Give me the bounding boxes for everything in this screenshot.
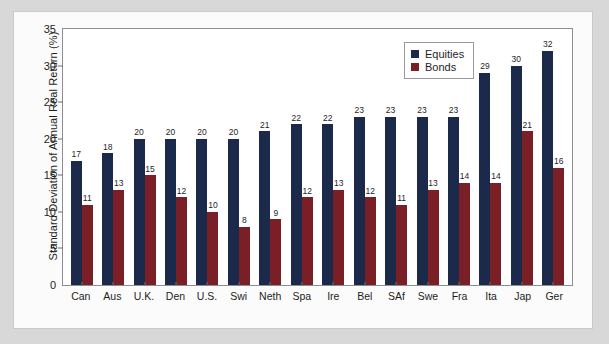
bar-value-label: 20 (197, 128, 206, 137)
bar-bonds[interactable]: 11 (396, 205, 407, 285)
x-axis-tick-label: Jap (507, 290, 539, 302)
bar-bonds[interactable]: 14 (459, 183, 470, 285)
x-axis-tick-mark (490, 282, 491, 286)
bar-value-label: 11 (83, 194, 92, 203)
bar-equities[interactable]: 23 (417, 117, 428, 285)
bar-bonds[interactable]: 12 (176, 197, 187, 285)
bar-equities[interactable]: 20 (196, 139, 207, 285)
bar-value-label: 23 (386, 106, 395, 115)
bar-equities[interactable]: 18 (102, 153, 113, 285)
x-axis-tick-mark (176, 282, 177, 286)
y-axis-title: Standard Deviation of Annual Real Return… (47, 21, 59, 271)
bar-bonds[interactable]: 13 (333, 190, 344, 285)
bar-bonds[interactable]: 10 (207, 212, 218, 285)
bar-bonds[interactable]: 12 (365, 197, 376, 285)
bar-bonds[interactable]: 9 (270, 219, 281, 285)
bar-bonds[interactable]: 13 (113, 190, 124, 285)
bar-equities[interactable]: 21 (259, 131, 270, 285)
bar-groups: 1711181320152012201020821922122213231223… (63, 29, 572, 285)
bar-value-label: 32 (543, 40, 552, 49)
bar-value-label: 20 (229, 128, 238, 137)
bar-bonds[interactable]: 12 (302, 197, 313, 285)
bar-bonds[interactable]: 21 (522, 131, 533, 285)
bar-bonds[interactable]: 15 (145, 175, 156, 285)
bar-value-label: 16 (554, 157, 563, 166)
chart-figure: Standard Deviation of Annual Real Return… (0, 0, 609, 344)
x-axis-tick-label: Spa (286, 290, 318, 302)
bar-group: 2914 (475, 29, 506, 285)
bar-bonds[interactable]: 11 (82, 205, 93, 285)
bar-bonds[interactable]: 13 (428, 190, 439, 285)
bar-value-label: 21 (523, 121, 532, 130)
bar-equities[interactable]: 17 (71, 161, 82, 285)
bar-value-label: 13 (114, 179, 123, 188)
bar-equities[interactable]: 29 (479, 73, 490, 285)
bar-equities[interactable]: 20 (228, 139, 239, 285)
bar-value-label: 23 (417, 106, 426, 115)
bar-value-label: 10 (208, 201, 217, 210)
bar-value-label: 17 (71, 150, 80, 159)
bar-value-label: 23 (354, 106, 363, 115)
bar-fill (102, 153, 113, 285)
bar-bonds[interactable]: 16 (553, 168, 564, 285)
x-axis-tick-mark (364, 282, 365, 286)
bar-equities[interactable]: 23 (448, 117, 459, 285)
x-axis-tick-mark (238, 282, 239, 286)
bar-equities[interactable]: 23 (354, 117, 365, 285)
bar-group: 2010 (192, 29, 223, 285)
bar-value-label: 14 (460, 172, 469, 181)
bar-value-label: 23 (449, 106, 458, 115)
bar-value-label: 18 (103, 143, 112, 152)
bar-fill (333, 190, 344, 285)
bar-fill (176, 197, 187, 285)
bar-fill (291, 124, 302, 285)
bar-fill (82, 205, 93, 285)
bar-fill (396, 205, 407, 285)
x-axis-tick-label: Ire (318, 290, 350, 302)
bar-value-label: 21 (260, 121, 269, 130)
y-axis-tick-label: 35 (44, 23, 63, 35)
legend-item-equities: Equities (411, 48, 464, 60)
x-axis-tick-label: Neth (254, 290, 286, 302)
x-axis-tick-label: Ger (538, 290, 570, 302)
x-axis-tick-label: Can (65, 290, 97, 302)
bar-equities[interactable]: 32 (542, 51, 553, 285)
bar-fill (522, 131, 533, 285)
legend-swatch-icon (411, 50, 419, 58)
bar-fill (113, 190, 124, 285)
bar-equities[interactable]: 22 (322, 124, 333, 285)
bar-fill (259, 131, 270, 285)
bar-value-label: 29 (480, 62, 489, 71)
bar-fill (145, 175, 156, 285)
bar-fill (134, 139, 145, 285)
x-axis-tick-mark (113, 282, 114, 286)
x-axis-tick-label: Fra (444, 290, 476, 302)
bar-group: 3021 (506, 29, 537, 285)
bar-bonds[interactable]: 8 (239, 227, 250, 286)
bar-value-label: 12 (365, 187, 374, 196)
chart-card: Standard Deviation of Annual Real Return… (13, 11, 593, 329)
bar-value-label: 12 (177, 187, 186, 196)
bar-equities[interactable]: 22 (291, 124, 302, 285)
x-axis-tick-label: Swe (412, 290, 444, 302)
bar-value-label: 22 (292, 114, 301, 123)
x-axis-tick-mark (333, 282, 334, 286)
bar-equities[interactable]: 30 (511, 66, 522, 285)
bar-group: 1711 (66, 29, 97, 285)
bar-fill (196, 139, 207, 285)
bar-fill (428, 190, 439, 285)
x-axis-tick-label: SAf (381, 290, 413, 302)
bar-value-label: 20 (134, 128, 143, 137)
x-axis-tick-mark (553, 282, 554, 286)
bar-value-label: 15 (145, 165, 154, 174)
bar-equities[interactable]: 20 (165, 139, 176, 285)
legend-item-bonds: Bonds (411, 61, 464, 73)
bar-value-label: 12 (303, 187, 312, 196)
x-axis-tick-mark (427, 282, 428, 286)
x-axis-tick-mark (270, 282, 271, 286)
bar-equities[interactable]: 20 (134, 139, 145, 285)
bar-group: 219 (255, 29, 286, 285)
bar-bonds[interactable]: 14 (490, 183, 501, 285)
x-axis-tick-mark (81, 282, 82, 286)
bar-equities[interactable]: 23 (385, 117, 396, 285)
